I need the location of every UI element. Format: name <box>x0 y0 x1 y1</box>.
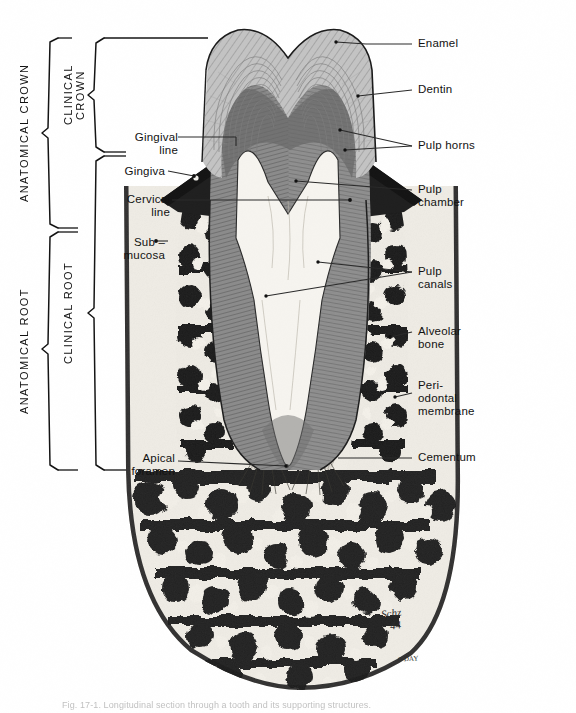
label-sub-mucosa: Sub – mucosa <box>60 236 165 262</box>
label-pulp-canals: Pulp canals <box>418 265 452 291</box>
label-enamel: Enamel <box>418 37 458 50</box>
artist-signature-small: 0-DAY <box>398 654 419 663</box>
bracket-label-anatomical-root: ANATOMICAL ROOT <box>18 232 30 470</box>
label-apical-foramen: Apical foramen <box>50 452 175 478</box>
label-periodontal-membrane: Peri- odontal membrane <box>418 379 475 418</box>
label-cementum: Cementum <box>418 451 476 464</box>
label-gingiva: Gingiva <box>60 165 165 178</box>
label-cervical-line: Cervical line <box>60 193 170 219</box>
paper-grain <box>0 0 576 713</box>
figure-caption: Fig. 17-1. Longitudinal section through … <box>62 700 371 712</box>
label-alveolar-bone: Alveolar bone <box>418 325 461 351</box>
label-pulp-horns: Pulp horns <box>418 139 475 152</box>
label-pulp-chamber: Pulp chamber <box>418 183 464 209</box>
label-dentin: Dentin <box>418 83 452 96</box>
tooth-cross-section-illustration <box>0 0 576 713</box>
label-gingival-line: Gingival line <box>60 131 178 157</box>
bracket-label-anatomical-crown: ANATOMICAL CROWN <box>18 38 30 228</box>
figure-canvas: ANATOMICAL CROWN CLINICAL CROWN ANATOMIC… <box>0 0 576 713</box>
artist-signature-year: 44 <box>389 619 401 630</box>
